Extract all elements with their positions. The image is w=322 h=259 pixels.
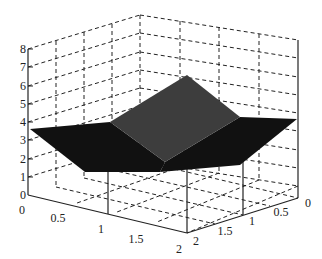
- z-tick-5: 5: [20, 97, 26, 111]
- z-tick-7: 7: [20, 60, 26, 74]
- y-tick-1.5: 1.5: [218, 224, 233, 238]
- z-tick-0: 0: [20, 188, 26, 202]
- x-tick-0: 0: [19, 203, 25, 217]
- z-tick-1: 1: [20, 170, 26, 184]
- z-tick-6: 6: [20, 79, 26, 93]
- z-tick-8: 8: [20, 42, 26, 56]
- y-tick-0.5: 0.5: [274, 205, 289, 219]
- surface: [30, 75, 297, 172]
- x-tick-0.5: 0.5: [51, 211, 66, 225]
- x-tick-1: 1: [98, 222, 104, 236]
- x-tick-2: 2: [176, 242, 182, 256]
- z-tick-2: 2: [20, 152, 26, 166]
- surface-plot: 0 1 2 3 4 5 6 7 8 0 0.5 1 1.5 2 2 1.5 1 …: [0, 0, 322, 259]
- y-tick-1: 1: [249, 214, 255, 228]
- x-tick-1.5: 1.5: [129, 232, 144, 246]
- y-tick-2: 2: [193, 234, 199, 248]
- z-tick-4: 4: [20, 115, 26, 129]
- y-tick-0: 0: [305, 196, 311, 210]
- z-tick-3: 3: [20, 133, 26, 147]
